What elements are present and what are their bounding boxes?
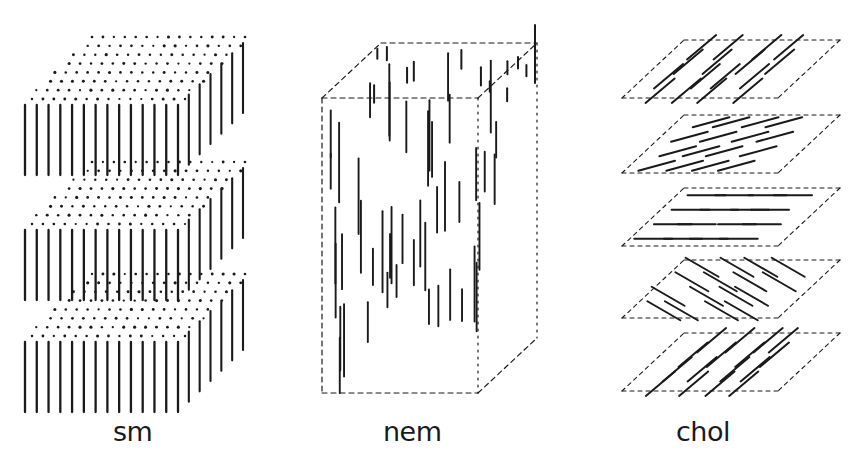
molecule-dot	[244, 273, 247, 276]
cholesteric-plane	[622, 35, 840, 103]
molecule-dot	[180, 205, 183, 208]
molecule-dot	[126, 317, 129, 320]
molecule-dot	[174, 71, 176, 73]
molecule-dot	[155, 187, 158, 190]
molecule-dot	[64, 223, 67, 226]
molecule-dot	[228, 45, 231, 48]
molecule-dot	[178, 36, 181, 39]
molecule-dot	[196, 196, 199, 199]
molecule-dot	[42, 335, 45, 338]
molecule-dot	[144, 89, 146, 91]
molecule-dot	[86, 196, 89, 199]
molecule-dot	[126, 80, 129, 83]
molecule-dot	[196, 282, 199, 285]
cholesteric-rod	[697, 79, 726, 103]
molecule-dot	[222, 272, 225, 275]
molecule-dot	[97, 71, 100, 74]
molecule-dot	[130, 282, 132, 284]
molecule-dot	[173, 223, 176, 226]
molecule-dot	[155, 62, 157, 64]
molecule-dot	[129, 335, 132, 338]
molecule-dot	[68, 326, 71, 329]
molecule-dot	[63, 335, 66, 338]
molecule-dot	[169, 317, 172, 320]
molecule-dot	[46, 326, 49, 329]
molecule-dot	[140, 223, 142, 225]
molecule-dot	[46, 89, 49, 92]
molecule-dot	[188, 187, 191, 190]
molecule-dot	[206, 44, 209, 47]
molecule-dot	[160, 54, 162, 56]
molecule-dot	[112, 326, 114, 328]
molecule-dot	[192, 178, 195, 181]
molecule-dot	[188, 214, 191, 217]
molecule-dot	[156, 273, 159, 276]
molecule-dot	[57, 214, 60, 217]
molecule-dot	[159, 178, 162, 181]
molecule-dot	[152, 308, 155, 311]
molecule-dot	[53, 71, 56, 74]
molecule-dot	[145, 161, 148, 164]
molecule-dot	[174, 308, 176, 310]
molecule-dot	[93, 80, 96, 83]
molecule-dot	[133, 326, 136, 329]
molecule-dot	[82, 80, 85, 83]
cholesteric-plane	[622, 328, 840, 396]
molecule-dot	[159, 317, 162, 320]
molecule-dot	[167, 35, 170, 38]
molecule-dot	[181, 290, 184, 293]
cholesteric-rod	[769, 328, 798, 352]
molecule-dot	[119, 71, 122, 74]
molecule-dot	[155, 299, 158, 302]
molecule-dot	[202, 205, 205, 208]
molecule-dot	[108, 170, 111, 173]
molecule-dot	[195, 71, 198, 74]
molecule-dot	[119, 170, 121, 172]
molecule-dot	[68, 299, 71, 302]
molecule-dot	[68, 89, 71, 92]
cholesteric-rod	[672, 79, 701, 103]
molecule-dot	[145, 36, 148, 39]
molecule-dot	[116, 291, 118, 293]
molecule-dot	[127, 290, 130, 293]
molecule-dot	[46, 214, 49, 217]
molecule-dot	[78, 326, 81, 329]
molecule-dot	[189, 161, 191, 163]
cholesteric-rod	[763, 272, 796, 291]
molecule-dot	[151, 335, 153, 337]
molecule-dot	[196, 45, 199, 48]
molecule-dot	[211, 273, 214, 276]
molecule-dot	[89, 89, 92, 92]
molecule-dot	[144, 214, 147, 217]
molecule-dot	[163, 170, 166, 173]
molecule-dot	[185, 169, 188, 172]
molecule-dot	[83, 179, 85, 181]
molecule-dot	[185, 282, 187, 284]
molecule-dot	[225, 290, 228, 293]
smectic-layer	[25, 161, 246, 300]
molecule-dot	[196, 169, 199, 172]
molecule-dot	[166, 187, 169, 190]
smectic-phase-diagram	[25, 35, 246, 412]
molecule-dot	[102, 36, 105, 39]
molecule-dot	[127, 178, 130, 181]
molecule-dot	[74, 97, 77, 100]
molecule-dot	[140, 98, 142, 100]
molecule-dot	[118, 335, 120, 337]
molecule-dot	[63, 98, 66, 101]
molecule-dot	[174, 281, 177, 284]
molecule-dot	[130, 308, 133, 311]
molecule-dot	[218, 170, 221, 173]
molecule-dot	[35, 326, 37, 328]
molecule-dot	[101, 89, 104, 92]
molecule-dot	[148, 317, 150, 319]
molecule-dot	[115, 205, 118, 208]
molecule-dot	[104, 205, 106, 207]
molecule-dot	[52, 98, 55, 101]
molecule-dot	[134, 299, 136, 301]
molecule-dot	[101, 273, 104, 276]
molecule-dot	[65, 71, 68, 74]
molecule-dot	[116, 179, 118, 181]
molecule-dot	[141, 196, 144, 199]
molecule-dot	[163, 281, 166, 284]
